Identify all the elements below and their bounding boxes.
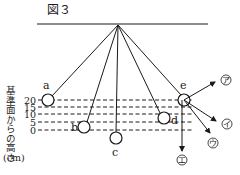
axis-unit: (cm) [3,152,25,163]
label-a: a [43,79,50,92]
tick-0: 0 [30,125,36,136]
bob-d [158,112,170,124]
bob-b [78,121,90,133]
svg-text:イ: イ [223,120,231,129]
figure-title: 図３ [47,3,71,17]
svg-text:エ: エ [178,156,186,165]
label-c: c [112,146,118,159]
height-tick-labels: 20 15 10 5 0 [24,95,36,136]
label-d: d [171,114,178,127]
bob-c [110,132,122,144]
svg-text:ウ: ウ [209,139,217,148]
label-b: b [71,121,78,134]
pendulum-diagram: 図３ 20 15 10 5 0 基準面からの高さ (cm) [0,0,240,175]
svg-text:ア: ア [222,76,230,85]
label-e: e [180,79,187,92]
axis-label: 基準面からの高さ [5,85,16,162]
bob-a [42,94,54,106]
